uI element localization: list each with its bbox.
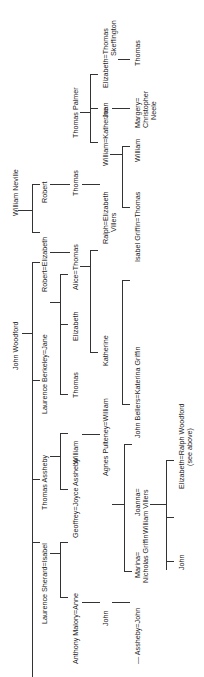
connector [32,184,40,185]
person-robert-elizabeth: Robert=Elizabeth [41,237,49,292]
connector [166,517,167,570]
connector [166,561,174,562]
connector [122,146,130,147]
connector [112,602,130,603]
person-laurence-sherard-isabel: Laurence Sherard=Isabel [41,543,49,624]
person-ralph-villers-line2: Villers [110,213,118,232]
connector [122,404,130,405]
connector [60,542,68,543]
person-alice-thomas: Alice=Thomas [72,244,80,290]
connector [122,146,123,208]
person-geoffrey-joyce: Geoffrey=Joyce Assheby [72,458,80,538]
person-isabel-griffin: Isabel Griffin=Thomas [134,192,142,262]
connector [32,262,33,677]
connector [90,250,98,251]
connector [32,184,33,233]
connector [110,154,122,155]
connector [82,602,100,603]
connector [60,542,61,598]
connector [122,280,130,281]
connector [90,108,98,109]
connector [124,444,132,445]
connector [60,394,68,395]
person-katherine: Katherine [102,335,110,366]
connector [32,232,40,233]
connector [82,434,100,435]
person-joanna-line2: William Villers [142,489,150,534]
connector [124,571,132,572]
person-anthony-malory-anne: Anthony Malory=Anne [72,593,80,664]
connector [90,142,98,143]
person-joan: Joan [102,102,110,118]
connector [80,112,90,113]
connector [32,262,40,263]
connector [32,479,40,480]
person-john-woodford: John Woodford [12,321,20,370]
connector [166,517,174,518]
person-marina-line2: Nicholas Griffin [142,534,150,583]
person-robert: Robert [41,181,49,203]
connector [60,489,68,490]
connector [90,74,98,75]
person-john-villers: John [178,554,186,570]
person-thomas-neville: Thomas [72,170,80,196]
person-margery-line3: Neele [150,101,158,120]
connector [60,597,68,598]
person-agnes-pulteney: Agnes Pulteney=William [102,398,110,476]
connector [112,504,124,505]
person-john-malory: John [102,610,110,626]
connector [18,210,32,211]
connector [60,324,68,325]
connector [80,266,90,267]
person-thomas-berkeley: Thomas [72,372,80,398]
person-john-bellers: John Bellers=Katerina Griffin [134,346,142,438]
connector [118,59,130,60]
connector [90,352,98,353]
connector [32,380,40,381]
person-assheby-john: — Assheby=John [134,608,142,664]
connector [50,553,60,554]
person-thomas-palmer: Thomas Palmer [72,87,80,138]
person-thomas-assheby: Thomas Assheby [41,455,49,510]
connector [124,444,125,572]
person-thomas-skeffington: Thomas [134,40,142,66]
connector [60,320,61,395]
person-laurence-berkeley-jane: Laurence Berkeley=Jane [41,334,49,414]
connector [150,504,166,505]
connector [50,302,60,303]
person-william-neville: William Neville [12,169,20,216]
connector [50,252,70,253]
connector [166,460,167,518]
connector [60,433,61,490]
connector [112,108,130,109]
connector [50,456,60,457]
person-elizabeth-skeffington-line2: Skeffington [110,20,118,56]
connector [82,184,100,185]
connector [32,542,40,543]
connector [122,207,130,208]
connector [50,184,70,185]
connector [90,250,91,353]
see-above-note: (see above) [186,428,194,466]
connector [122,280,123,405]
connector [166,460,174,461]
person-william-k: William [134,139,142,162]
person-elizabeth-berkeley: Elizabeth [72,311,80,341]
connector [60,274,68,275]
connector [60,433,68,434]
connector [22,333,32,334]
